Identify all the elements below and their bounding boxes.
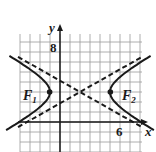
focus-2-label: F2: [121, 88, 136, 105]
focus-1-dot: [47, 89, 53, 95]
x-axis-label: x: [144, 124, 152, 139]
x-tick-label: 6: [116, 124, 123, 139]
focus-1-label: F1: [22, 88, 37, 105]
y-tick-label: 8: [50, 40, 57, 55]
right-branch: [110, 56, 154, 130]
focus-2-dot: [108, 89, 114, 95]
hyperbola-diagram: y x 8 6 F1 F2: [0, 0, 156, 152]
y-axis-label: y: [47, 20, 55, 35]
y-axis-arrow-icon: [57, 24, 63, 31]
